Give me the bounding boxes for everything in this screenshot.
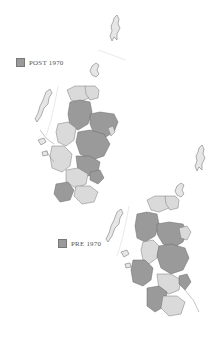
region-west-highlands bbox=[56, 122, 76, 146]
orkney-islands bbox=[90, 63, 99, 77]
shetland-islands bbox=[195, 145, 205, 171]
region-borders bbox=[161, 296, 185, 316]
scotland-map-pre-1970 bbox=[95, 130, 222, 343]
outer-hebrides bbox=[35, 89, 52, 122]
region-lothian bbox=[179, 274, 191, 290]
orkney-islands bbox=[175, 183, 184, 197]
region-grampian bbox=[157, 244, 189, 274]
inner-hebrides bbox=[38, 138, 48, 156]
shetland-islands bbox=[110, 15, 120, 41]
legend-swatch-pre-1970 bbox=[58, 239, 67, 248]
outer-hebrides bbox=[106, 209, 123, 242]
region-sutherland bbox=[135, 212, 159, 242]
region-argyll bbox=[50, 146, 72, 172]
inner-hebrides bbox=[121, 250, 131, 268]
region-north-east-coast bbox=[179, 226, 191, 240]
region-argyll bbox=[131, 260, 153, 286]
